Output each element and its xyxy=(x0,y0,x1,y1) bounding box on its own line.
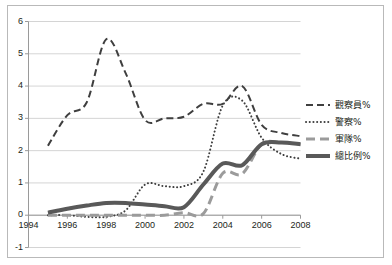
y-tick-label: 3 xyxy=(5,112,23,122)
x-tick-label: 1998 xyxy=(90,220,122,230)
x-tick-label: 2004 xyxy=(207,220,239,230)
legend-item-4[interactable]: 總比例% xyxy=(305,147,381,164)
legend-item-2[interactable]: 警察% xyxy=(305,113,381,130)
chart-legend: 觀察員%警察%軍隊%總比例% xyxy=(305,96,381,164)
legend-item-3[interactable]: 軍隊% xyxy=(305,130,381,147)
y-tick-label: 4 xyxy=(5,80,23,90)
y-tick-label: 0 xyxy=(5,209,23,219)
gridlines xyxy=(29,22,301,248)
chart-figure: 6543210-1 199419961998200020022004200620… xyxy=(0,0,392,265)
x-tick-label: 2000 xyxy=(129,220,161,230)
legend-swatch-icon xyxy=(305,151,331,161)
legend-label: 軍隊% xyxy=(335,134,362,144)
x-tick-label: 1996 xyxy=(51,220,83,230)
legend-swatch-icon xyxy=(305,134,331,144)
series-line-1 xyxy=(48,39,301,146)
y-tick-label: -1 xyxy=(5,242,23,252)
legend-label: 總比例% xyxy=(335,151,371,161)
legend-swatch-icon xyxy=(305,100,331,110)
series-lines xyxy=(48,39,301,218)
legend-label: 警察% xyxy=(335,117,362,127)
y-tick-label: 5 xyxy=(5,48,23,58)
x-tick-label: 2006 xyxy=(246,220,278,230)
x-tick-label: 1994 xyxy=(13,220,45,230)
y-tick-label: 6 xyxy=(5,16,23,26)
legend-item-1[interactable]: 觀察員% xyxy=(305,96,381,113)
series-line-2 xyxy=(48,97,301,218)
series-line-4 xyxy=(48,142,301,213)
y-tick-label: 2 xyxy=(5,145,23,155)
y-tick-label: 1 xyxy=(5,177,23,187)
axis-lines xyxy=(25,22,301,248)
x-tick-label: 2008 xyxy=(285,220,317,230)
legend-swatch-icon xyxy=(305,117,331,127)
legend-label: 觀察員% xyxy=(335,100,371,110)
x-tick-label: 2002 xyxy=(168,220,200,230)
